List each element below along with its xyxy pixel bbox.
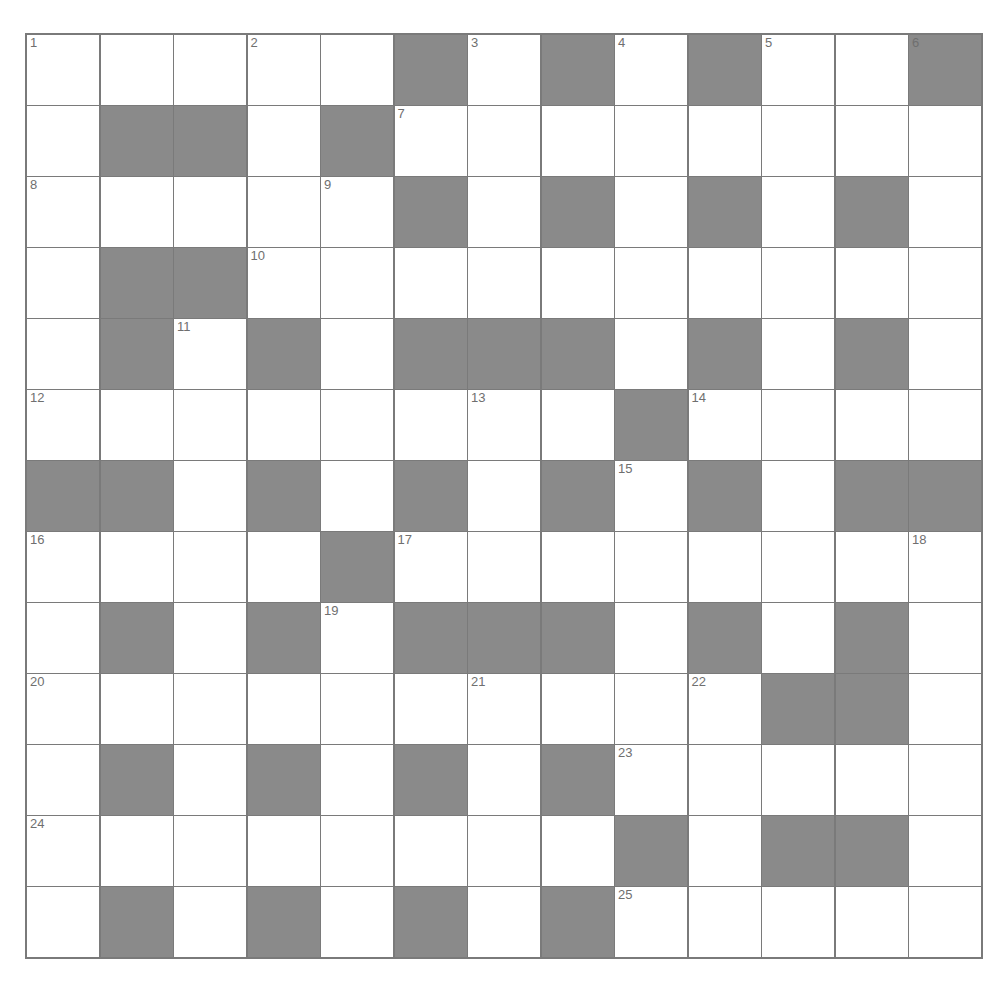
crossword-cell[interactable] bbox=[836, 248, 908, 318]
crossword-cell[interactable] bbox=[174, 816, 246, 886]
crossword-cell[interactable] bbox=[909, 745, 981, 815]
crossword-cell[interactable] bbox=[762, 461, 834, 531]
crossword-cell[interactable] bbox=[762, 532, 834, 602]
crossword-cell[interactable] bbox=[321, 35, 393, 105]
crossword-cell[interactable]: 7 bbox=[395, 106, 467, 176]
crossword-cell[interactable]: 17 bbox=[395, 532, 467, 602]
crossword-cell[interactable]: 24 bbox=[27, 816, 99, 886]
crossword-cell[interactable] bbox=[248, 532, 320, 602]
crossword-cell[interactable]: 16 bbox=[27, 532, 99, 602]
crossword-cell[interactable] bbox=[762, 603, 834, 673]
crossword-cell[interactable]: 3 bbox=[468, 35, 540, 105]
crossword-cell[interactable] bbox=[101, 35, 173, 105]
crossword-cell[interactable] bbox=[248, 390, 320, 460]
crossword-cell[interactable] bbox=[27, 745, 99, 815]
crossword-cell[interactable]: 19 bbox=[321, 603, 393, 673]
crossword-cell[interactable] bbox=[321, 248, 393, 318]
crossword-cell[interactable] bbox=[174, 461, 246, 531]
crossword-cell[interactable] bbox=[909, 177, 981, 247]
crossword-cell[interactable]: 8 bbox=[27, 177, 99, 247]
crossword-cell[interactable] bbox=[615, 177, 687, 247]
crossword-cell[interactable] bbox=[542, 816, 614, 886]
crossword-cell[interactable] bbox=[101, 816, 173, 886]
crossword-cell[interactable] bbox=[174, 532, 246, 602]
crossword-cell[interactable] bbox=[27, 248, 99, 318]
crossword-cell[interactable] bbox=[27, 106, 99, 176]
crossword-cell[interactable] bbox=[909, 106, 981, 176]
crossword-cell[interactable]: 12 bbox=[27, 390, 99, 460]
crossword-cell[interactable] bbox=[248, 106, 320, 176]
crossword-cell[interactable]: 15 bbox=[615, 461, 687, 531]
crossword-cell[interactable] bbox=[909, 887, 981, 957]
crossword-cell[interactable] bbox=[909, 816, 981, 886]
crossword-cell[interactable] bbox=[321, 816, 393, 886]
crossword-cell[interactable]: 9 bbox=[321, 177, 393, 247]
crossword-cell[interactable] bbox=[174, 603, 246, 673]
crossword-cell[interactable] bbox=[395, 674, 467, 744]
crossword-cell[interactable] bbox=[909, 248, 981, 318]
crossword-cell[interactable]: 1 bbox=[27, 35, 99, 105]
crossword-cell[interactable] bbox=[321, 461, 393, 531]
crossword-cell[interactable] bbox=[909, 603, 981, 673]
crossword-cell[interactable] bbox=[762, 390, 834, 460]
crossword-cell[interactable] bbox=[248, 674, 320, 744]
crossword-cell[interactable] bbox=[542, 106, 614, 176]
crossword-cell[interactable] bbox=[101, 390, 173, 460]
crossword-cell[interactable]: 11 bbox=[174, 319, 246, 389]
crossword-cell[interactable]: 21 bbox=[468, 674, 540, 744]
crossword-cell[interactable] bbox=[836, 106, 908, 176]
crossword-cell[interactable] bbox=[836, 532, 908, 602]
crossword-cell[interactable] bbox=[395, 816, 467, 886]
crossword-cell[interactable] bbox=[542, 532, 614, 602]
crossword-cell[interactable]: 13 bbox=[468, 390, 540, 460]
crossword-cell[interactable] bbox=[321, 390, 393, 460]
crossword-cell[interactable] bbox=[542, 390, 614, 460]
crossword-cell[interactable] bbox=[27, 887, 99, 957]
crossword-cell[interactable] bbox=[542, 248, 614, 318]
crossword-cell[interactable] bbox=[689, 248, 761, 318]
crossword-cell[interactable] bbox=[689, 745, 761, 815]
crossword-cell[interactable] bbox=[468, 106, 540, 176]
crossword-cell[interactable] bbox=[762, 887, 834, 957]
crossword-cell[interactable] bbox=[101, 674, 173, 744]
crossword-cell[interactable] bbox=[689, 106, 761, 176]
crossword-cell[interactable] bbox=[174, 390, 246, 460]
crossword-cell[interactable] bbox=[101, 532, 173, 602]
crossword-cell[interactable] bbox=[468, 816, 540, 886]
crossword-cell[interactable] bbox=[836, 390, 908, 460]
crossword-cell[interactable]: 14 bbox=[689, 390, 761, 460]
crossword-cell[interactable] bbox=[174, 35, 246, 105]
crossword-cell[interactable]: 18 bbox=[909, 532, 981, 602]
crossword-cell[interactable] bbox=[174, 674, 246, 744]
crossword-cell[interactable] bbox=[615, 532, 687, 602]
crossword-cell[interactable] bbox=[468, 887, 540, 957]
crossword-cell[interactable] bbox=[174, 177, 246, 247]
crossword-cell[interactable]: 4 bbox=[615, 35, 687, 105]
crossword-cell[interactable] bbox=[689, 816, 761, 886]
crossword-cell[interactable] bbox=[836, 35, 908, 105]
crossword-cell[interactable] bbox=[615, 674, 687, 744]
crossword-cell[interactable] bbox=[248, 177, 320, 247]
crossword-cell[interactable]: 5 bbox=[762, 35, 834, 105]
crossword-cell[interactable] bbox=[101, 177, 173, 247]
crossword-cell[interactable] bbox=[321, 674, 393, 744]
crossword-cell[interactable] bbox=[615, 248, 687, 318]
crossword-cell[interactable] bbox=[174, 745, 246, 815]
crossword-cell[interactable]: 22 bbox=[689, 674, 761, 744]
crossword-cell[interactable] bbox=[689, 532, 761, 602]
crossword-cell[interactable] bbox=[174, 887, 246, 957]
crossword-cell[interactable] bbox=[468, 248, 540, 318]
crossword-cell[interactable] bbox=[615, 603, 687, 673]
crossword-cell[interactable] bbox=[27, 603, 99, 673]
crossword-cell[interactable] bbox=[321, 887, 393, 957]
crossword-cell[interactable]: 20 bbox=[27, 674, 99, 744]
crossword-cell[interactable]: 2 bbox=[248, 35, 320, 105]
crossword-cell[interactable] bbox=[909, 390, 981, 460]
crossword-cell[interactable] bbox=[468, 745, 540, 815]
crossword-cell[interactable] bbox=[395, 248, 467, 318]
crossword-cell[interactable] bbox=[395, 390, 467, 460]
crossword-cell[interactable] bbox=[836, 745, 908, 815]
crossword-cell[interactable]: 10 bbox=[248, 248, 320, 318]
crossword-cell[interactable] bbox=[762, 248, 834, 318]
crossword-cell[interactable] bbox=[762, 745, 834, 815]
